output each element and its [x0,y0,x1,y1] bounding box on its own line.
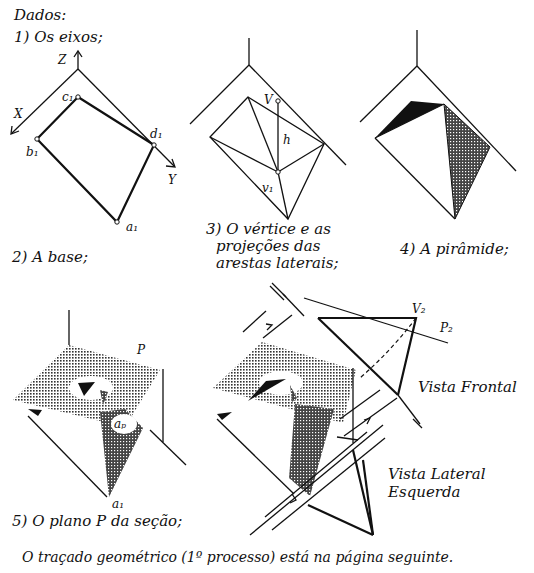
step-3-label-line1: 3) O vértice e as [206,220,331,238]
panel-section-plane [13,310,186,497]
step-3-label-line3: arestas laterais; [216,254,338,272]
step-1-label: 1) Os eixos; [14,28,103,46]
lateral-view-label-line1: Vista Lateral [388,465,486,483]
step-2-label: 2) A base; [11,248,88,266]
axis-x-label: X [13,107,23,121]
diagram-canvas: Dados: 1) Os eixos; Z X Y c₁ b₁ a₁ d₁ 2)… [0,0,534,573]
step-4-label: 4) A pirâmide; [399,240,509,258]
point-ap-label: aₚ [114,417,126,431]
point-d1: d₁ [150,127,163,141]
height-h-label: h [283,133,291,147]
axis-z-label: Z [57,53,67,67]
v2-label: V₂ [412,302,426,316]
point-c1: c₁ [62,90,74,104]
step-5-label: 5) O plano P da seção; [12,512,182,530]
step-3-label-line2: projeções das [216,237,321,255]
lateral-view-label-line2: Esquerda [387,483,461,501]
section-a1-label: a₁ [112,497,124,511]
frontal-view-label: Vista Frontal [418,378,517,396]
p2-label: P₂ [439,321,453,335]
title: Dados: [13,6,66,24]
point-b1: b₁ [26,145,39,159]
vertex-v-label: V [264,93,274,107]
plane-p-label: P [136,343,146,357]
vertex-v1-label: v₁ [262,181,274,195]
panel-pyramid [360,30,516,219]
point-a1: a₁ [126,220,138,234]
footer-note: O traçado geométrico (1º processo) está … [22,549,453,565]
axis-y-label: Y [168,173,177,187]
